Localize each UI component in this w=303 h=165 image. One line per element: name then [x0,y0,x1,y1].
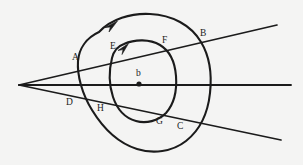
center-point-marker [136,81,141,86]
label-A: A [72,53,79,63]
orbit-diagram-figure: A B C D E F G H b [0,0,303,165]
label-B: B [200,29,206,39]
label-D: D [66,98,73,108]
label-E: E [110,42,116,52]
label-F: F [162,36,167,46]
lower-ray [19,85,281,140]
diagram-canvas [0,0,303,165]
label-C: C [177,122,183,132]
label-H: H [97,104,104,114]
label-b: b [136,69,141,79]
inner-orbit-curve [110,40,176,122]
label-G: G [156,117,163,127]
outer-orbit-curve [78,14,211,152]
upper-ray [19,25,277,85]
